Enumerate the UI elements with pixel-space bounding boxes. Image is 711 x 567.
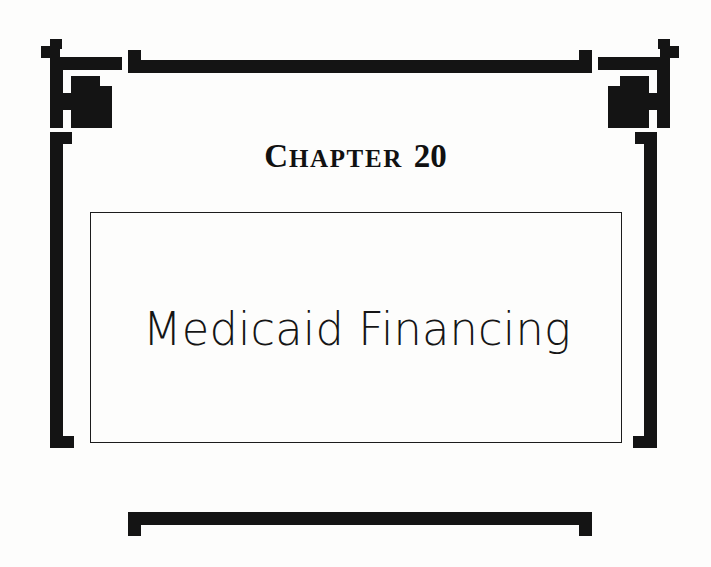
top-horizontal-rule <box>128 50 592 73</box>
right-bracket-spine <box>633 132 657 448</box>
chapter-title: Medicaid Financing <box>104 213 609 444</box>
chapter-number: 20 <box>414 138 447 174</box>
chapter-label: CHAPTER20 <box>0 138 711 175</box>
chapter-label-first-letter: C <box>264 138 289 174</box>
chapter-title-box: Medicaid Financing <box>90 212 622 443</box>
corner-ornament-top-left <box>41 39 122 128</box>
corner-ornament-top-right <box>598 39 679 128</box>
bottom-horizontal-rule <box>128 512 592 536</box>
left-bracket-spine <box>50 132 74 448</box>
chapter-label-rest: HAPTER <box>289 145 403 172</box>
chapter-title-page: CHAPTER20 Medicaid Financing <box>0 0 711 567</box>
